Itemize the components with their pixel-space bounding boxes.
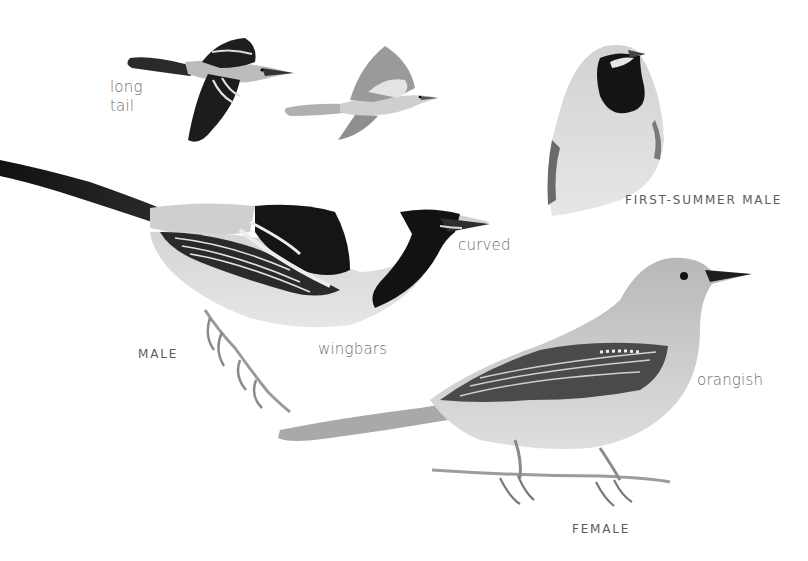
caption-first-summer-male: FIRST-SUMMER MALE	[625, 194, 782, 206]
annotation-curved: curved	[458, 238, 511, 253]
annotation-long-tail: long tail	[110, 78, 143, 116]
flight-female-figure	[285, 46, 438, 140]
annotation-long-tail-line1: long	[110, 78, 143, 97]
caption-male: MALE	[138, 348, 178, 360]
caption-female: FEMALE	[572, 523, 630, 535]
first-summer-male-figure	[548, 45, 665, 216]
illustration-plate: long tail curved wingbars orangish FIRST…	[0, 0, 808, 561]
flight-male-figure	[127, 38, 294, 142]
annotation-long-tail-line2: tail	[110, 97, 143, 116]
annotation-orangish: orangish	[697, 373, 763, 388]
annotation-wingbars: wingbars	[318, 342, 387, 357]
adult-male-figure	[0, 160, 490, 412]
